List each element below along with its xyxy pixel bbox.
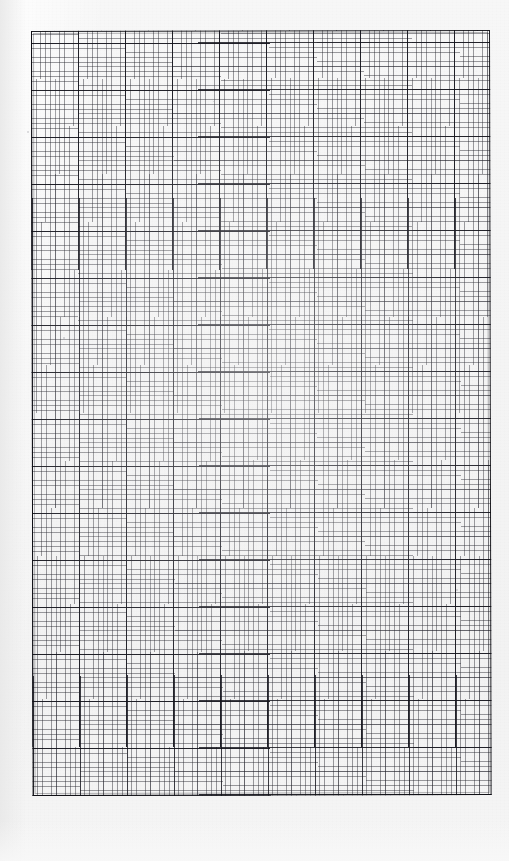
graph-paper-grid: [31, 30, 492, 796]
screenshot-root: Blank graph paper sheet Scanned sheet of…: [0, 0, 509, 861]
grid-inner-border: [33, 32, 490, 795]
